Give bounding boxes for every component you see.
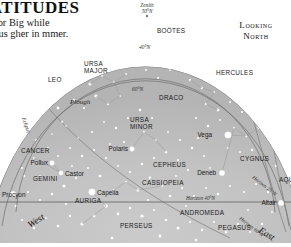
constellation-label-gemini: GEMINI: [33, 175, 58, 182]
star-dot-deneb: [219, 170, 225, 176]
star-chart-page: Zenith 50°N 40°N 60°N Horizon 25°N Horiz…: [0, 0, 291, 247]
zenith-label: Zenith 50°N: [140, 2, 154, 14]
asterism-label-plough: Plough: [69, 98, 91, 106]
looking-direction-heading: Looking North: [225, 20, 287, 41]
constellation-label-auriga: AURIGA: [75, 197, 102, 204]
constellation-label-cassiopeia: CASSIOPEIA: [142, 179, 184, 186]
constellation-label-cepheus: CEPHEUS: [153, 161, 186, 168]
looking-direction-line2: North: [225, 31, 287, 42]
constellation-label-leo: LEO: [48, 76, 62, 83]
star-label-altair: Altair: [261, 199, 276, 206]
constellation-label-cygnus: CYGNUS: [240, 155, 269, 162]
star-label-pollux: Pollux: [31, 159, 49, 166]
constellation-label-hercules: HERCULES: [216, 69, 253, 76]
constellation-label-ursa-minor-line1: URSA: [130, 116, 149, 123]
star-label-capella: Capella: [97, 189, 119, 197]
page-title: LATITUDES: [0, 0, 80, 18]
constellation-label-andromeda: ANDROMEDA: [180, 209, 225, 216]
star-label-vega: Vega: [197, 131, 212, 139]
constellation-label-ursa-minor-line2: MINOR: [130, 123, 153, 130]
constellation-label-cancer: CANCER: [21, 147, 50, 154]
star-dot-vega: [225, 132, 232, 139]
constellation-label-bootes: BOÖTES: [157, 27, 185, 34]
ecliptic-label: Ecliptic: [21, 116, 32, 135]
star-label-procyon: Procyon: [2, 191, 26, 199]
star-dot-capella: [89, 189, 96, 196]
article-body-text: ugh (or Big while Cygnus gher in mmer. u…: [0, 17, 72, 51]
zenith-label-line2: 50°N: [142, 8, 153, 14]
constellation-label-ursa-major-line2: MAJOR: [84, 67, 108, 74]
latitude-arc-label-0: 40°N: [139, 44, 151, 50]
constellation-label-ursa-major-line1: URSA: [84, 60, 103, 67]
horizon-label-1: Horizon 40°N: [185, 195, 216, 201]
constellation-label-aquila: AQUILA: [279, 176, 291, 184]
constellation-label-pegasus: PEGASUS: [218, 224, 251, 231]
constellation-label-perseus: PERSEUS: [120, 222, 153, 229]
latitude-arc-label-1: 60°N: [132, 86, 144, 92]
constellation-label-draco: DRACO: [159, 94, 184, 101]
star-dot-castor: [59, 171, 63, 175]
star-dot-polaris: [130, 147, 135, 152]
zenith-marker: [146, 15, 148, 17]
looking-direction-line1: Looking: [225, 20, 287, 31]
star-label-deneb: Deneb: [197, 169, 216, 176]
star-label-castor: Castor: [65, 170, 85, 177]
star-label-polaris: Polaris: [108, 145, 128, 152]
star-dot-pollux: [50, 161, 55, 166]
star-dot-altair: [278, 200, 284, 206]
